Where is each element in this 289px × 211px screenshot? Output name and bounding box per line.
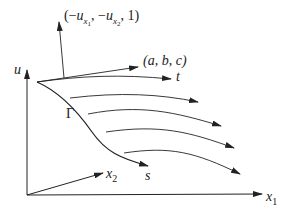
characteristic-curves bbox=[37, 76, 240, 174]
characteristic-curve-2 bbox=[88, 110, 221, 126]
t-label: t bbox=[176, 69, 181, 84]
characteristic-curve-4 bbox=[124, 150, 240, 174]
s-label: s bbox=[145, 168, 151, 183]
vector-abc bbox=[37, 67, 138, 82]
characteristic-curve-3 bbox=[106, 129, 234, 148]
normal-vector bbox=[59, 22, 64, 78]
normal-label: (−ux1, −ux2, 1) bbox=[64, 8, 139, 28]
x2-axis bbox=[27, 173, 103, 195]
x1-axis-label: x1 bbox=[265, 189, 277, 207]
characteristic-curve-1 bbox=[70, 95, 198, 102]
x1-axis bbox=[27, 194, 262, 195]
u-axis-label: u bbox=[14, 62, 21, 77]
gamma-label: Γ bbox=[66, 106, 74, 121]
x2-axis-label: x2 bbox=[105, 166, 117, 184]
abc-label: (a, b, c) bbox=[143, 53, 187, 69]
characteristics-diagram: u x1 x2 Γ s t (a, b, c) (−ux1, −ux2, 1) bbox=[0, 0, 289, 211]
